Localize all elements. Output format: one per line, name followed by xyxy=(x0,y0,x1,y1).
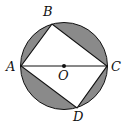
label-c: C xyxy=(111,59,121,74)
label-d: D xyxy=(72,109,84,122)
label-o: O xyxy=(58,68,69,83)
label-a: A xyxy=(5,59,15,74)
label-b: B xyxy=(42,4,53,19)
geometry-diagram: A B C D O xyxy=(0,0,130,122)
